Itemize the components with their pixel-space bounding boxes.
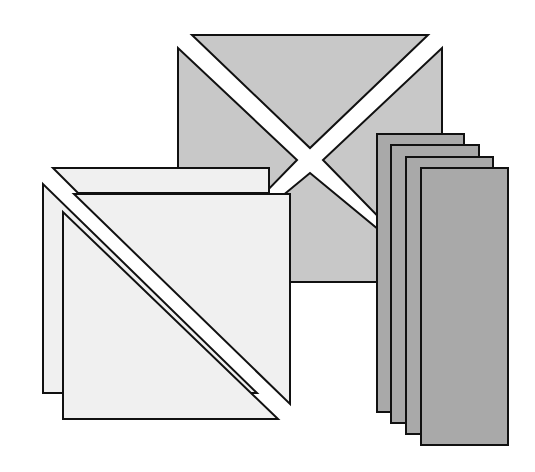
- diagram-canvas: [0, 0, 535, 472]
- stacked-rect-4: [421, 168, 508, 445]
- stacked-rectangles: [377, 134, 508, 445]
- diag-triangle-back-upper: [53, 168, 269, 193]
- diagram-svg: [0, 0, 535, 472]
